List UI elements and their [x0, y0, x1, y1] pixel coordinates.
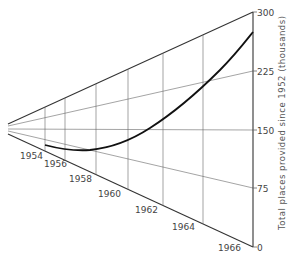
y-tick-225: 225: [257, 67, 274, 77]
x-tick-1964: 1964: [172, 222, 195, 232]
x-tick-1966: 1966: [218, 243, 241, 253]
x-tick-1956: 1956: [44, 159, 67, 169]
y-axis-title: Total places provided since 1952 (thousa…: [277, 16, 287, 231]
data-curve: [45, 32, 253, 150]
y-tick-0: 0: [257, 243, 263, 253]
grid-lines: [8, 12, 257, 247]
x-tick-1960: 1960: [98, 189, 121, 199]
x-tick-1962: 1962: [135, 205, 158, 215]
y-tick-300: 300: [257, 8, 274, 18]
y-tick-150: 150: [257, 126, 274, 136]
x-axis-labels: 1954 1956 1958 1960 1962 1964 1966: [20, 151, 241, 253]
y-axis-labels: 300 225 150 75 0: [257, 8, 274, 253]
y-tick-75: 75: [257, 184, 268, 194]
x-tick-1958: 1958: [69, 174, 92, 184]
perspective-line-chart: 1954 1956 1958 1960 1962 1964 1966 300 2…: [0, 0, 291, 259]
x-tick-1954: 1954: [20, 151, 43, 161]
